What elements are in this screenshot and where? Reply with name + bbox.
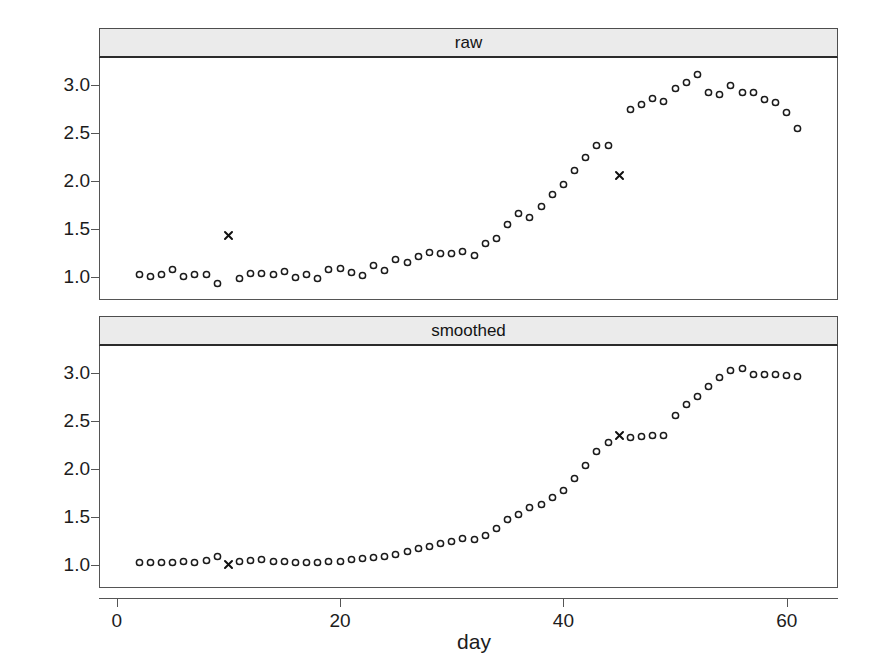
data-point bbox=[157, 270, 166, 279]
data-point bbox=[648, 431, 657, 440]
data-point bbox=[514, 510, 523, 519]
data-point bbox=[157, 558, 166, 567]
y-tick-mark bbox=[91, 373, 99, 374]
data-point bbox=[336, 557, 345, 566]
y-tick-label: 3.0 bbox=[38, 74, 90, 96]
x-tick-label: 60 bbox=[776, 610, 797, 632]
data-point bbox=[269, 557, 278, 566]
y-tick-mark bbox=[91, 85, 99, 86]
data-point bbox=[771, 98, 780, 107]
data-point bbox=[726, 366, 735, 375]
data-point bbox=[604, 438, 613, 447]
y-tick-mark bbox=[91, 229, 99, 230]
data-point bbox=[514, 209, 523, 218]
y-tick-mark bbox=[91, 565, 99, 566]
y-tick-label: 1.5 bbox=[38, 506, 90, 528]
data-point-flagged bbox=[614, 430, 625, 441]
x-tick-mark bbox=[340, 598, 341, 607]
data-point bbox=[291, 273, 300, 282]
chart-figure: outcome raw 1.01.52.02.53.0 smoothed 1.0… bbox=[0, 0, 878, 670]
data-points-smoothed bbox=[100, 346, 837, 587]
data-point bbox=[704, 382, 713, 391]
y-tick-mark bbox=[91, 421, 99, 422]
data-point bbox=[246, 556, 255, 565]
y-axis-ticks-raw: 1.01.52.02.53.0 bbox=[38, 58, 90, 298]
data-point-flagged bbox=[223, 559, 234, 570]
data-point bbox=[168, 265, 177, 274]
data-point-flagged bbox=[614, 170, 625, 181]
data-point bbox=[481, 531, 490, 540]
data-point bbox=[269, 270, 278, 279]
data-point bbox=[671, 411, 680, 420]
data-point bbox=[637, 100, 646, 109]
data-point bbox=[302, 558, 311, 567]
plot-area-raw bbox=[99, 58, 838, 300]
data-point bbox=[715, 90, 724, 99]
data-point bbox=[592, 447, 601, 456]
data-point bbox=[715, 373, 724, 382]
y-tick-label: 2.5 bbox=[38, 122, 90, 144]
data-point bbox=[280, 557, 289, 566]
data-point bbox=[637, 432, 646, 441]
panel-raw: raw bbox=[99, 28, 838, 302]
data-point bbox=[738, 88, 747, 97]
data-point bbox=[347, 555, 356, 564]
data-point bbox=[135, 270, 144, 279]
data-point bbox=[492, 234, 501, 243]
data-point bbox=[760, 95, 769, 104]
data-point bbox=[626, 105, 635, 114]
data-point bbox=[570, 166, 579, 175]
data-point bbox=[213, 552, 222, 561]
data-point bbox=[793, 372, 802, 381]
data-point bbox=[380, 552, 389, 561]
data-point bbox=[135, 558, 144, 567]
data-point bbox=[202, 270, 211, 279]
panel-strip-raw: raw bbox=[99, 28, 838, 58]
data-point bbox=[190, 558, 199, 567]
plot-area-smoothed bbox=[99, 346, 838, 588]
data-point bbox=[570, 474, 579, 483]
data-point bbox=[414, 544, 423, 553]
data-point bbox=[592, 141, 601, 150]
data-point bbox=[369, 553, 378, 562]
y-tick-label: 3.0 bbox=[38, 362, 90, 384]
data-point bbox=[436, 249, 445, 258]
data-point bbox=[581, 461, 590, 470]
data-point bbox=[257, 269, 266, 278]
data-point bbox=[403, 258, 412, 267]
data-point bbox=[403, 547, 412, 556]
data-point bbox=[447, 537, 456, 546]
data-point bbox=[470, 251, 479, 260]
y-tick-mark bbox=[91, 469, 99, 470]
data-point bbox=[246, 269, 255, 278]
data-point bbox=[604, 141, 613, 150]
data-point bbox=[146, 272, 155, 281]
data-point bbox=[313, 274, 322, 283]
x-tick-mark bbox=[563, 598, 564, 607]
y-tick-label: 2.5 bbox=[38, 410, 90, 432]
panel-smoothed: smoothed bbox=[99, 316, 838, 590]
data-point bbox=[537, 500, 546, 509]
data-point bbox=[704, 88, 713, 97]
data-point bbox=[358, 271, 367, 280]
data-point bbox=[179, 557, 188, 566]
data-point bbox=[235, 557, 244, 566]
data-point bbox=[648, 94, 657, 103]
data-point bbox=[190, 270, 199, 279]
data-point bbox=[280, 267, 289, 276]
data-point bbox=[291, 558, 300, 567]
y-axis-ticks-smoothed: 1.01.52.02.53.0 bbox=[38, 346, 90, 586]
data-point bbox=[693, 392, 702, 401]
data-point bbox=[492, 524, 501, 533]
data-point bbox=[771, 370, 780, 379]
data-point bbox=[682, 400, 691, 409]
y-tick-label: 1.5 bbox=[38, 218, 90, 240]
data-point bbox=[503, 220, 512, 229]
data-point bbox=[525, 503, 534, 512]
data-point bbox=[537, 202, 546, 211]
data-point bbox=[425, 248, 434, 257]
data-point bbox=[749, 88, 758, 97]
data-point bbox=[559, 180, 568, 189]
y-tick-label: 1.0 bbox=[38, 554, 90, 576]
data-point bbox=[682, 78, 691, 87]
